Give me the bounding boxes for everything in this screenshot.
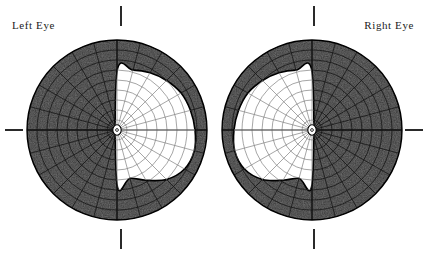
fixation-point (308, 125, 316, 135)
fixation-point (113, 125, 121, 135)
perimetry-plots (0, 0, 428, 255)
right-eye-field (222, 40, 402, 220)
left-eye-field (27, 40, 207, 220)
visual-field-chart-figure: Left Eye Right Eye (0, 0, 428, 255)
